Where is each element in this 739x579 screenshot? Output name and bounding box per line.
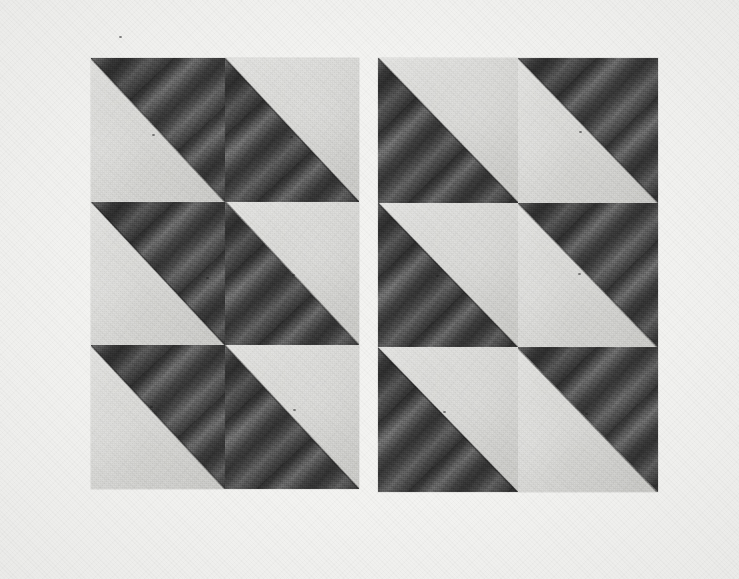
tile-r1-c1 <box>225 202 359 346</box>
tile-r0-c0 <box>378 58 518 203</box>
tile-r0-c1 <box>225 58 359 202</box>
tile-r2-c1 <box>225 345 359 489</box>
tile-r1-c1 <box>518 203 658 348</box>
dust-speck <box>119 36 122 38</box>
tile-r0-c0 <box>91 58 225 202</box>
tile-r1-c0 <box>91 202 225 346</box>
tile-r2-c1 <box>518 347 658 492</box>
plate-left-plate <box>91 58 359 489</box>
tile-r1-c0 <box>378 203 518 348</box>
tile-r2-c0 <box>91 345 225 489</box>
tile-r0-c1 <box>518 58 658 203</box>
plate-right-plate <box>378 58 658 492</box>
tile-r2-c0 <box>378 347 518 492</box>
figure-root <box>0 0 739 579</box>
